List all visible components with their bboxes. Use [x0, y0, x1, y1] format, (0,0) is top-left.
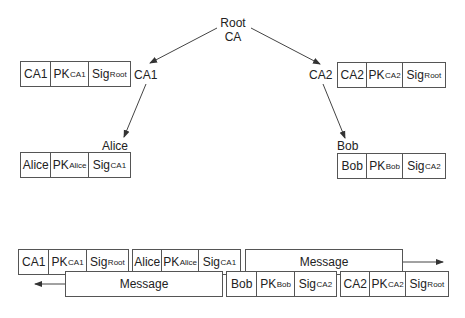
cert-subject: CA2: [338, 63, 367, 87]
certificate-alice: Alice PKAlice SigCA1: [20, 152, 131, 178]
cert-subject-text: CA2: [341, 68, 364, 82]
cert-sig-subscript: Root: [110, 70, 127, 79]
cert-key-text: PK: [54, 67, 70, 81]
cert-key-text: PK: [52, 255, 68, 269]
cert-key-subscript: Bob: [277, 280, 291, 289]
cert-subject-text: Alice: [23, 158, 49, 172]
cert-public-key: PKCA2: [370, 272, 405, 296]
cert-subject-text: CA2: [344, 277, 367, 291]
cert-key-subscript: Bob: [386, 162, 400, 171]
root-ca-line1: Root: [213, 16, 253, 30]
cert-sig-subscript: CA2: [425, 162, 441, 171]
cert-signature: SigCA1: [89, 153, 130, 177]
cert-subject: Bob: [338, 154, 367, 178]
certificate-ca2: CA2 PKCA2 SigRoot: [337, 62, 446, 88]
cert-sig-text: Sig: [407, 68, 424, 82]
cert-key-text: PK: [369, 159, 385, 173]
cert-subject: Bob: [227, 272, 257, 296]
cert-sig-text: Sig: [92, 67, 109, 81]
root-ca-line2: CA: [213, 30, 253, 44]
cert-sig-subscript: Root: [427, 280, 444, 289]
cert-signature: SigRoot: [89, 62, 130, 86]
certificate-bob: Bob PKBob SigCA2: [337, 153, 446, 179]
cert-public-key: PKBob: [367, 154, 402, 178]
cert-key-subscript: CA1: [68, 258, 84, 267]
cert-signature: SigCA2: [295, 272, 336, 296]
cert-subject-text: Bob: [342, 159, 363, 173]
cert-signature: SigRoot: [406, 272, 448, 296]
cert-sig-text: Sig: [410, 277, 427, 291]
cert-key-subscript: CA1: [70, 70, 86, 79]
cert-sig-subscript: Root: [108, 258, 125, 267]
cert-sig-text: Sig: [93, 158, 110, 172]
cert-subject: Alice: [21, 153, 51, 177]
cert-subject-text: CA1: [22, 255, 45, 269]
cert-subject: CA1: [19, 250, 49, 274]
cert-sig-text: Sig: [90, 255, 107, 269]
cert-key-text: PK: [260, 277, 276, 291]
cert-public-key: PKCA1: [51, 62, 88, 86]
root-ca-label: Root CA: [213, 16, 253, 44]
cert-sig-subscript: Root: [424, 71, 441, 80]
cert-key-subscript: CA2: [385, 71, 401, 80]
chain-certificate-bob: Bob PKBob SigCA2: [226, 271, 337, 297]
cert-key-subscript: Alice: [69, 161, 86, 170]
cert-key-text: PK: [372, 277, 388, 291]
cert-key-subscript: Alice: [180, 258, 197, 267]
cert-sig-text: Sig: [203, 255, 220, 269]
certificate-ca1: CA1 PKCA1 SigRoot: [20, 61, 131, 87]
cert-public-key: PKAlice: [51, 153, 88, 177]
cert-key-text: PK: [163, 255, 179, 269]
ca2-node-label: CA2: [309, 68, 332, 82]
cert-key-text: PK: [369, 68, 385, 82]
cert-sig-subscript: CA2: [317, 280, 333, 289]
ca1-node-label: CA1: [134, 68, 157, 82]
cert-signature: SigCA2: [403, 154, 445, 178]
cert-sig-text: Sig: [299, 277, 316, 291]
cert-subject: CA2: [341, 272, 370, 296]
cert-key-text: PK: [53, 158, 69, 172]
cert-subject-text: CA1: [24, 67, 47, 81]
bob-node-label: Bob: [337, 139, 358, 153]
cert-subject-text: Bob: [231, 277, 252, 291]
alice-node-label: Alice: [102, 139, 128, 153]
cert-signature: SigRoot: [403, 63, 445, 87]
cert-public-key: PKCA2: [367, 63, 402, 87]
cert-sig-text: Sig: [407, 159, 424, 173]
cert-subject: CA1: [21, 62, 51, 86]
cert-sig-subscript: CA1: [221, 258, 237, 267]
cert-sig-subscript: CA1: [111, 161, 127, 170]
cert-subject-text: Alice: [134, 255, 160, 269]
chain-certificate-ca2: CA2 PKCA2 SigRoot: [340, 271, 449, 297]
incoming-message-box: Message: [65, 271, 223, 297]
cert-public-key: PKBob: [257, 272, 294, 296]
cert-key-subscript: CA2: [388, 280, 404, 289]
